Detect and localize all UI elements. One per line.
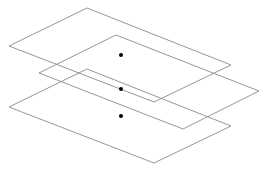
diagram-svg <box>0 0 270 172</box>
top-center-dot <box>119 53 123 57</box>
bottom-center-dot <box>119 114 123 118</box>
middle-plane <box>39 35 259 129</box>
middle-center-dot <box>119 87 123 91</box>
stacked-planes-diagram <box>0 0 270 172</box>
